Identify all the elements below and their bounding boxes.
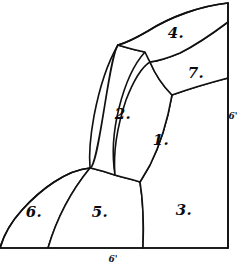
region-3-label: 3. xyxy=(176,201,193,219)
region-5-label: 5. xyxy=(92,203,109,221)
bottom-edge-dimension-label: 6' xyxy=(108,254,117,264)
region-6-label: 6. xyxy=(26,203,43,221)
region-4-label: 4. xyxy=(168,24,185,42)
figure-svg xyxy=(0,0,243,267)
diagram-canvas: 1. 2. 3. 4. 5. 6. 7. 6' 6' xyxy=(0,0,243,267)
region-7-label: 7. xyxy=(188,64,205,82)
region-1-label: 1. xyxy=(153,131,170,149)
right-edge-dimension-label: 6' xyxy=(228,111,237,121)
region-2-label: 2. xyxy=(115,105,132,123)
